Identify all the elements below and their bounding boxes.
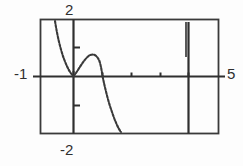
- y-min-label: -2: [60, 142, 73, 157]
- x-min-label: -1: [14, 66, 27, 81]
- x-max-label: 5: [227, 66, 235, 81]
- plot-canvas: [0, 0, 243, 166]
- graph-screenshot: 2 -2 -1 5: [0, 0, 243, 166]
- curve-left-branch: [55, 21, 74, 76]
- curve-right-branch: [103, 76, 121, 132]
- y-max-label: 2: [65, 2, 73, 17]
- curve-hump: [74, 55, 103, 77]
